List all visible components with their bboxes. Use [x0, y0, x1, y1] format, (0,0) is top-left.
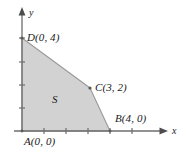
vertex-label-b: B(4, 0) — [115, 113, 146, 124]
y-axis-label: y — [29, 8, 34, 18]
vertex-label-d: D(0, 4) — [27, 32, 59, 43]
vertex-label-a: A(0, 0) — [24, 136, 55, 147]
vertex-marker-d — [20, 36, 23, 39]
coordinate-plane-figure: D(0, 4) C(3, 2) B(4, 0) A(0, 0) S x y — [0, 0, 186, 160]
y-axis-arrowhead — [19, 7, 26, 16]
x-axis-label: x — [172, 126, 177, 136]
vertex-marker-a — [21, 130, 24, 133]
vertex-label-c: C(3, 2) — [95, 82, 127, 93]
vertex-marker-c — [88, 86, 91, 89]
vertex-marker-b — [109, 130, 112, 133]
x-axis-arrowhead — [160, 128, 169, 135]
region-label-s: S — [52, 94, 58, 105]
